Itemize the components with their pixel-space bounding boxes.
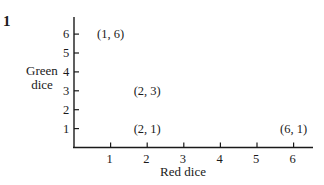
data-point-label: (6, 1) [280, 123, 307, 135]
x-tick-label: 2 [143, 153, 149, 165]
x-tick-label: 6 [290, 153, 296, 165]
x-tick-label: 5 [253, 153, 259, 165]
data-point-label: (1, 6) [97, 28, 124, 40]
x-tick-label: 1 [107, 153, 113, 165]
data-point-label: (2, 1) [134, 123, 161, 135]
x-ticks [111, 143, 294, 148]
y-tick-label: 2 [63, 104, 69, 116]
y-tick-label: 6 [63, 28, 69, 40]
y-axis-label: Green dice [22, 64, 62, 92]
chart-axes [0, 0, 324, 185]
y-axis-label-line-1: Green [22, 64, 62, 78]
y-tick-label: 3 [63, 85, 69, 97]
data-point-label: (2, 3) [134, 85, 161, 97]
y-tick-label: 4 [63, 66, 69, 78]
x-axis-label: Red dice [143, 165, 223, 179]
y-axis-label-line-2: dice [22, 78, 62, 92]
y-tick-label: 5 [63, 47, 69, 59]
y-tick-label: 1 [63, 123, 69, 135]
y-ticks [74, 34, 79, 129]
x-tick-label: 3 [180, 153, 186, 165]
x-tick-label: 4 [216, 153, 222, 165]
